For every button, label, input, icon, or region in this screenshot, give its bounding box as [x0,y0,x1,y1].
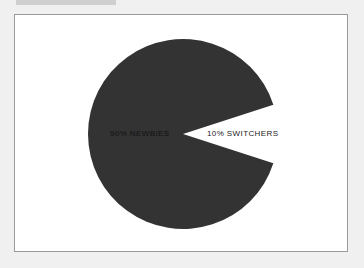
label-newbies: 90% NEWBIES [110,129,170,138]
label-switchers: 10% SWITCHERS [207,129,278,138]
pie-chart: 90% NEWBIES 10% SWITCHERS [0,0,364,268]
